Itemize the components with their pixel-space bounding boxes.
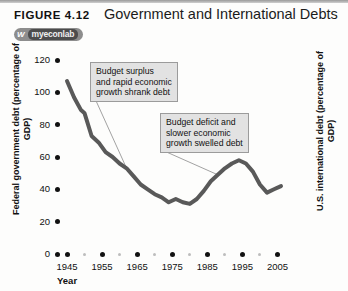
annotation-budget-surplus: Budget surplus and rapid economic growth…	[90, 62, 178, 102]
annotation-budget-deficit: Budget deficit and slower economic growt…	[160, 113, 249, 153]
chart-plot-area: Federal government debt (percentage of G…	[0, 0, 348, 291]
